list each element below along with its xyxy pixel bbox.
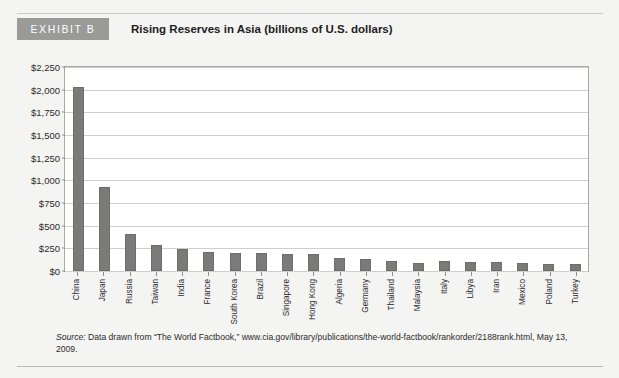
x-axis-category: Hong Kong bbox=[300, 272, 326, 324]
bar bbox=[360, 259, 371, 271]
x-axis-category: Poland bbox=[537, 272, 563, 324]
x-axis-tick-mark bbox=[156, 272, 157, 276]
x-axis-category: Turkey bbox=[563, 272, 589, 324]
x-axis-tick-mark bbox=[550, 272, 551, 276]
plot-area: $0$250$500$750$1,000$1,250$1,500$1,750$2… bbox=[64, 66, 589, 272]
x-axis-tick-label: India bbox=[178, 279, 186, 297]
bar bbox=[203, 252, 214, 271]
bar-slot bbox=[143, 67, 169, 271]
bar-slot bbox=[274, 67, 300, 271]
x-axis-category: Brazil bbox=[248, 272, 274, 324]
x-axis-category: Malaysia bbox=[405, 272, 431, 324]
header-divider bbox=[17, 13, 603, 14]
x-axis-tick-mark bbox=[77, 272, 78, 276]
exhibit-page: EXHIBIT B Rising Reserves in Asia (billi… bbox=[0, 0, 619, 378]
x-axis-tick-label: Russia bbox=[126, 279, 134, 304]
x-axis-tick-mark bbox=[287, 272, 288, 276]
bar bbox=[99, 187, 110, 271]
x-axis-tick-label: Italy bbox=[441, 279, 449, 294]
x-axis-tick-mark bbox=[340, 272, 341, 276]
x-axis-tick-mark bbox=[103, 272, 104, 276]
bar-slot bbox=[431, 67, 457, 271]
bar bbox=[151, 245, 162, 271]
x-axis-category: Germany bbox=[353, 272, 379, 324]
x-axis-tick-label: Iran bbox=[493, 279, 501, 293]
x-axis-tick-mark bbox=[208, 272, 209, 276]
bar bbox=[308, 254, 319, 271]
bar bbox=[125, 234, 136, 271]
x-axis-tick-label: France bbox=[204, 279, 212, 304]
x-axis-category: Russia bbox=[117, 272, 143, 324]
x-axis-tick-mark bbox=[235, 272, 236, 276]
x-axis-tick-label: Thailand bbox=[388, 279, 396, 310]
bar-slot bbox=[353, 67, 379, 271]
bar bbox=[282, 254, 293, 271]
x-axis-tick-label: Hong Kong bbox=[309, 279, 317, 320]
x-axis-category: Mexico bbox=[510, 272, 536, 324]
bar-slot bbox=[65, 67, 91, 271]
bar bbox=[517, 263, 528, 271]
x-axis-category: Algeria bbox=[327, 272, 353, 324]
bar-slot bbox=[91, 67, 117, 271]
x-axis-tick-mark bbox=[392, 272, 393, 276]
y-axis-tick-label: $2,250 bbox=[31, 62, 60, 73]
x-axis-category: Thailand bbox=[379, 272, 405, 324]
x-axis-category: Japan bbox=[90, 272, 116, 324]
x-axis-tick-mark bbox=[130, 272, 131, 276]
source-text: Data drawn from “The World Factbook,” ww… bbox=[56, 332, 567, 354]
bar bbox=[386, 261, 397, 271]
x-axis-tick-label: Libya bbox=[467, 279, 475, 299]
y-axis-tick-label: $2,000 bbox=[31, 84, 60, 95]
y-axis-tick-label: $1,500 bbox=[31, 129, 60, 140]
y-axis-tick-label: $250 bbox=[39, 243, 60, 254]
bar-slot bbox=[510, 67, 536, 271]
y-axis-tick-label: $500 bbox=[39, 220, 60, 231]
bar bbox=[491, 262, 502, 271]
bar-slot bbox=[248, 67, 274, 271]
bar-slot bbox=[457, 67, 483, 271]
x-axis-tick-label: Mexico bbox=[519, 279, 527, 305]
x-axis-tick-mark bbox=[576, 272, 577, 276]
x-axis-tick-mark bbox=[471, 272, 472, 276]
bar bbox=[334, 258, 345, 271]
x-axis-category: France bbox=[195, 272, 221, 324]
exhibit-title: Rising Reserves in Asia (billions of U.S… bbox=[131, 18, 393, 40]
x-axis-tick-label: Poland bbox=[546, 279, 554, 305]
x-axis-category: Libya bbox=[458, 272, 484, 324]
x-axis-tick-label: Algeria bbox=[336, 279, 344, 305]
x-axis-tick-label: South Korea bbox=[231, 279, 239, 325]
bar bbox=[73, 87, 84, 271]
bar-slot bbox=[379, 67, 405, 271]
x-axis-tick-mark bbox=[313, 272, 314, 276]
x-axis-tick-mark bbox=[523, 272, 524, 276]
bar-slot bbox=[300, 67, 326, 271]
x-axis-tick-label: Taiwan bbox=[152, 279, 160, 305]
bar bbox=[177, 249, 188, 271]
y-axis-tick-label: $1,250 bbox=[31, 152, 60, 163]
bar-slot bbox=[536, 67, 562, 271]
x-axis-category: Iran bbox=[484, 272, 510, 324]
exhibit-header: EXHIBIT B Rising Reserves in Asia (billi… bbox=[17, 18, 393, 40]
footer-divider bbox=[17, 366, 603, 367]
x-axis-tick-label: China bbox=[73, 279, 81, 300]
x-axis-tick-mark bbox=[445, 272, 446, 276]
bar bbox=[439, 261, 450, 271]
source-label: Source: bbox=[56, 332, 86, 342]
bar-slot bbox=[484, 67, 510, 271]
bar-slot bbox=[222, 67, 248, 271]
x-axis: ChinaJapanRussiaTaiwanIndiaFranceSouth K… bbox=[64, 272, 589, 324]
bar bbox=[570, 264, 581, 271]
y-axis-tick-label: $1,000 bbox=[31, 175, 60, 186]
bar bbox=[413, 263, 424, 271]
x-axis-tick-label: Singapore bbox=[283, 279, 291, 316]
bar-slot bbox=[170, 67, 196, 271]
bar-slot bbox=[117, 67, 143, 271]
x-axis-category: Taiwan bbox=[143, 272, 169, 324]
exhibit-tag: EXHIBIT B bbox=[17, 18, 109, 40]
y-axis-tick-label: $1,750 bbox=[31, 107, 60, 118]
bar bbox=[465, 262, 476, 271]
x-axis-tick-mark bbox=[418, 272, 419, 276]
bar-slot bbox=[327, 67, 353, 271]
x-axis-tick-label: Japan bbox=[99, 279, 107, 301]
x-axis-tick-label: Brazil bbox=[257, 279, 265, 299]
